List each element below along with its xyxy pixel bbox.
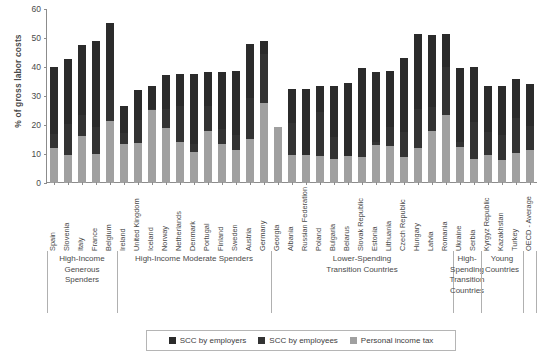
legend-item: SCC by employees: [258, 336, 337, 345]
bar-segment-personal-income-tax: [92, 154, 100, 183]
bar-segment-scc-employers: [288, 89, 296, 122]
x-axis-label-poland: Poland: [315, 185, 323, 251]
x-axis-label-romania: Romania: [441, 185, 449, 251]
bar: [428, 35, 436, 183]
bar: [330, 86, 338, 183]
bar-segment-scc-employees: [190, 144, 198, 152]
plot-area: 0102030405060: [47, 9, 537, 183]
bar-segment-personal-income-tax: [330, 159, 338, 183]
bar-segment-scc-employers: [358, 68, 366, 130]
group-label-line: Young: [479, 254, 525, 265]
group-label-line: Transition: [444, 275, 490, 286]
bar-segment-scc-employers: [526, 84, 534, 126]
bar-segment-scc-employers: [302, 89, 310, 154]
bar-segment-personal-income-tax: [484, 155, 492, 183]
y-tick-mark: [44, 183, 47, 184]
bar: [50, 67, 58, 183]
bar-segment-scc-employees: [106, 90, 114, 121]
bar-segment-scc-employees: [400, 132, 408, 157]
bar-segment-scc-employers: [134, 90, 142, 120]
bar-segment-scc-employers: [344, 83, 352, 156]
bar: [218, 72, 226, 183]
bar-segment-personal-income-tax: [274, 127, 282, 183]
bar-segment-scc-employers: [64, 59, 72, 124]
bar: [456, 68, 464, 183]
y-tick-40: 40: [1, 62, 47, 72]
bar-segment-personal-income-tax: [106, 121, 114, 183]
bar: [190, 74, 198, 183]
bar: [400, 58, 408, 183]
bar: [260, 41, 268, 183]
bar-segment-scc-employers: [204, 72, 212, 107]
bar-segment-personal-income-tax: [456, 147, 464, 183]
bar: [358, 68, 366, 183]
bar: [246, 44, 254, 183]
x-axis-label-kazakhstan: Kazakhstan: [497, 185, 505, 251]
x-axis-label-ukraine: Ukraine: [455, 185, 463, 251]
x-axis-label-germany: Germany: [259, 185, 267, 251]
bar-segment-scc-employers: [470, 67, 478, 122]
bar-segment-scc-employers: [218, 72, 226, 130]
bar-segment-scc-employers: [120, 106, 128, 133]
bar-segment-scc-employees: [526, 126, 534, 150]
bar: [386, 71, 394, 183]
y-tick-30: 30: [1, 91, 47, 101]
bar-segment-scc-employees: [50, 134, 58, 148]
bar-segment-scc-employees: [414, 109, 422, 148]
bar-segment-scc-employees: [134, 120, 142, 143]
bar-segment-personal-income-tax: [414, 148, 422, 183]
group-label: High-IncomeGenerousSpenders: [47, 254, 117, 286]
category-labels: SpainSloveniaItalyFranceBelgiumIrelandUn…: [47, 185, 537, 251]
group-label-line: Transition Countries: [271, 265, 453, 276]
bar-segment-scc-employers: [92, 41, 100, 127]
bar-segment-scc-employers: [148, 86, 156, 109]
x-axis-label-albania: Albania: [287, 185, 295, 251]
bar-segment-personal-income-tax: [512, 153, 520, 183]
x-axis-label-slovenia: Slovenia: [63, 185, 71, 251]
group-separator: [536, 251, 537, 313]
bar: [204, 72, 212, 183]
bar: [442, 34, 450, 183]
bar-segment-personal-income-tax: [50, 148, 58, 183]
y-tick-50: 50: [1, 33, 47, 43]
y-tick-60: 60: [1, 4, 47, 14]
group-separator: [523, 251, 524, 313]
bar-segment-personal-income-tax: [246, 139, 254, 183]
bar-segment-scc-employers: [512, 79, 520, 118]
bar-segment-scc-employees: [442, 67, 450, 115]
y-tick-20: 20: [1, 120, 47, 130]
x-axis-label-spain: Spain: [49, 185, 57, 251]
bar: [288, 89, 296, 183]
legend-item: SCC by employers: [169, 336, 247, 345]
bar-segment-scc-employers: [484, 86, 492, 132]
bar: [148, 86, 156, 183]
bar: [484, 86, 492, 183]
x-axis-label-austria: Austria: [245, 185, 253, 251]
bar-segment-personal-income-tax: [232, 150, 240, 183]
bar-segment-scc-employees: [176, 106, 184, 142]
bar: [526, 84, 534, 183]
y-axis-title: % of gross labor costs: [13, 11, 23, 151]
legend-swatch: [258, 337, 265, 344]
group-label-line: High-Income: [47, 254, 117, 265]
bar-segment-scc-employees: [204, 106, 212, 131]
group-label: YoungCountries: [479, 254, 525, 275]
legend-item: Personal income tax: [350, 336, 433, 345]
bar: [316, 86, 324, 183]
bar-segment-scc-employees: [162, 109, 170, 129]
bar-segment-scc-employees: [64, 124, 72, 154]
x-axis-label-estonia: Estonia: [371, 185, 379, 251]
bar-segment-personal-income-tax: [428, 131, 436, 183]
bar-segment-scc-employers: [498, 86, 506, 135]
legend-label: SCC by employees: [269, 336, 337, 345]
bar-segment-personal-income-tax: [372, 145, 380, 183]
bar-segment-personal-income-tax: [344, 156, 352, 183]
legend-swatch: [169, 337, 176, 344]
bar-segment-scc-employers: [372, 72, 380, 142]
bar-segment-scc-employees: [288, 123, 296, 155]
bar-segment-scc-employees: [512, 118, 520, 153]
x-axis-label-portugal: Portugal: [203, 185, 211, 251]
bar-segment-scc-employers: [386, 71, 394, 127]
x-axis-label-italy: Italy: [77, 185, 85, 251]
bar-segment-personal-income-tax: [442, 115, 450, 183]
